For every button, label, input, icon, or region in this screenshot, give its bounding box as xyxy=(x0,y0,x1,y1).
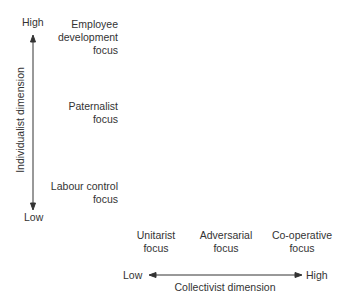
paternalist-focus-label: Paternalist focus xyxy=(68,100,118,126)
employee-development-focus-label: Employee development focus xyxy=(58,18,118,57)
adversarial-focus-label: Adversarial focus xyxy=(193,229,259,255)
x-axis-title: Collectivist dimension xyxy=(165,281,285,294)
x-axis-low-label: Low xyxy=(123,269,142,282)
up-arrow-icon xyxy=(31,35,36,42)
x-axis-high-label: High xyxy=(306,269,328,282)
axes-graphic xyxy=(0,0,346,304)
right-arrow-icon xyxy=(295,273,302,278)
y-axis-title: Individualist dimension xyxy=(14,67,26,173)
down-arrow-icon xyxy=(31,203,36,210)
cooperative-focus-label: Co-operative focus xyxy=(266,229,338,255)
left-arrow-icon xyxy=(149,273,156,278)
labour-control-focus-label: Labour control focus xyxy=(51,180,118,206)
y-axis-high-label: High xyxy=(22,16,44,29)
y-axis-low-label: Low xyxy=(24,211,43,224)
unitarist-focus-label: Unitarist focus xyxy=(126,229,186,255)
